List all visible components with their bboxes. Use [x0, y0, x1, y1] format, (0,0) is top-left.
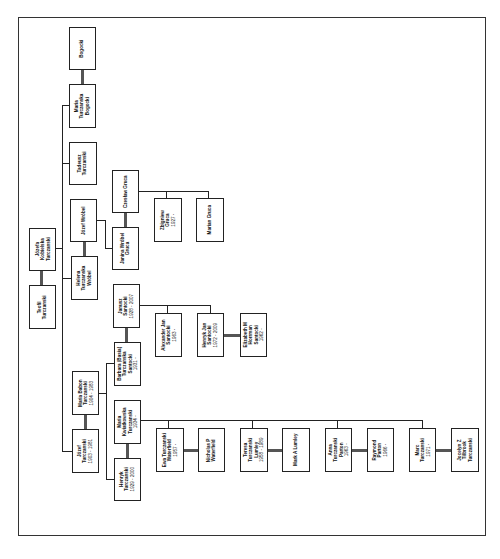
person-name: Elizabeth M Horrman Santocki — [243, 322, 259, 347]
person-jozefa[interactable]: Józefa Kobielska Turczanski — [29, 228, 56, 271]
person-dates: 1958 - 1989 — [259, 438, 264, 463]
person-name: Tadeusz Turczanski — [78, 152, 89, 176]
person-dates: 1966 - — [383, 443, 388, 456]
person-name: Zbigniew Gruca — [160, 210, 170, 230]
connector — [140, 305, 211, 306]
connector — [210, 305, 211, 313]
connector — [62, 451, 72, 452]
person-zbigniew[interactable]: Zbigniew Gruca 1927 - — [154, 198, 182, 242]
person-raymond[interactable]: Raymond Parton 1966 - — [367, 428, 394, 472]
person-henryk[interactable]: Henryk Turczanski 1929 - 2000 — [114, 458, 141, 501]
person-czeslaw[interactable]: Czesław Gruca — [112, 170, 139, 213]
connector — [62, 163, 69, 164]
person-teofil[interactable]: Teofil Turczanski — [29, 285, 56, 329]
connector — [167, 305, 168, 313]
person-name: Barbara (Basia) Turczanska Santocki — [117, 347, 133, 381]
connector — [208, 191, 209, 198]
person-dates: 1963 - — [344, 443, 349, 456]
person-tadeusz[interactable]: Tadeusz Turczanski — [69, 142, 97, 185]
person-maria-kwiatkowska[interactable]: Maria Kwiatkowska Turczanski 1934 - — [114, 400, 141, 444]
person-maria-babon[interactable]: Maria Babon Turczanski 1904 - 1983 — [72, 371, 99, 415]
person-dates: 1927 - — [171, 213, 176, 226]
person-janina[interactable]: Janina Wróbel Gruca — [112, 227, 139, 270]
person-name: Maria Kwiatkowska Turczanski — [117, 408, 133, 437]
connector — [337, 420, 338, 428]
connector — [62, 278, 71, 279]
connector — [422, 420, 423, 428]
person-barbara[interactable]: Barbara (Basia) Turczanska Santocki 1931… — [114, 342, 141, 386]
person-dates: 1931 - — [133, 357, 138, 370]
person-name: Czesław Gruca — [123, 175, 128, 208]
person-name: Alexander Jan Santocki — [160, 319, 170, 350]
person-dates: 1962 - — [259, 328, 264, 341]
person-jozef-turczanski[interactable]: Józef Turczanski 1903 - 1981 — [72, 429, 99, 473]
person-dates: 1972 - 2009 — [213, 323, 218, 348]
person-jocelyn[interactable]: Jocelyn Z Tilbrook Turczanski — [451, 428, 479, 472]
person-name: Jocelyn Z Tilbrook Turczanski — [457, 438, 473, 462]
person-dates: 1957 - — [173, 443, 178, 456]
connector — [99, 393, 106, 394]
connector — [105, 248, 112, 249]
person-name: Janusz Santocki — [118, 296, 128, 315]
person-dates: 1904 - 1983 — [88, 381, 93, 406]
person-name: Marian Gruca — [207, 205, 212, 234]
person-name: Helena Turczanska Wróbel — [76, 266, 92, 291]
person-nicholas[interactable]: Nicholas P Waterfield — [198, 428, 225, 472]
person-alexander[interactable]: Alexander Jan Santocki 1963 - — [155, 313, 182, 357]
person-janusz[interactable]: Janusz Santocki 1928 - 2007 — [113, 284, 140, 328]
person-name: Anna Turczanski Parton — [328, 438, 344, 462]
person-dates: 1963 - — [171, 328, 176, 341]
spouse-link — [224, 334, 240, 337]
spouse-link — [81, 70, 84, 84]
person-ewa[interactable]: Ewa Turczanski Waterfield 1957 - — [156, 428, 184, 472]
person-name: Teresa Turczanski Lumley — [243, 438, 259, 462]
person-name: Józefa Kobielska Turczanski — [34, 238, 50, 262]
connector — [106, 363, 107, 479]
person-dates: 1903 - 1981 — [88, 439, 93, 464]
person-name: Henryk Jan Santocki — [202, 323, 212, 348]
person-name: Bogocki — [80, 39, 85, 57]
spouse-link — [352, 449, 367, 452]
spouse-link — [126, 444, 129, 458]
person-name: Marc Turczanski — [414, 438, 424, 462]
person-name: Janina Wróbel Gruca — [120, 233, 131, 264]
person-henryk-jan[interactable]: Henryk Jan Santocki 1972 - 2009 — [197, 313, 224, 357]
spouse-link — [268, 449, 282, 452]
connector — [168, 420, 169, 428]
connector — [97, 220, 105, 221]
person-dates: 1928 - 2007 — [129, 294, 134, 319]
person-jozef-wrobel[interactable]: Józef Wróbel — [70, 199, 97, 242]
person-anna[interactable]: Anna Turczanski Parton 1963 - — [325, 428, 352, 472]
person-name: Józef Turczanski — [77, 439, 87, 463]
person-bogocki[interactable]: Bogocki — [69, 27, 96, 70]
person-elizabeth[interactable]: Elizabeth M Horrman Santocki 1962 - — [240, 313, 267, 357]
person-name: Ewa Turczanski Waterfield — [162, 433, 172, 467]
person-name: Maria Turczanska Bogocki — [74, 94, 90, 119]
spouse-link — [436, 449, 451, 452]
person-name: Raymond Parton — [372, 440, 382, 461]
connector — [106, 363, 114, 364]
person-name: Maria Babon Turczanski — [77, 379, 87, 407]
person-dates: 1934 - — [133, 415, 138, 428]
person-marc[interactable]: Marc Turczanski 1971 - — [409, 428, 436, 472]
person-name: Henryk Turczanski — [119, 468, 129, 492]
person-name: Teofil Turczanski — [37, 295, 48, 319]
spouse-link — [184, 449, 198, 452]
person-teresa[interactable]: Teresa Turczanski Lumley 1958 - 1989 — [240, 428, 268, 472]
person-maria-bogocki[interactable]: Maria Turczanska Bogocki — [69, 84, 96, 128]
spouse-link — [125, 328, 128, 342]
connector — [62, 105, 69, 106]
connector — [139, 191, 209, 192]
person-marian[interactable]: Marian Gruca — [196, 198, 224, 242]
person-dates: 1971 - — [425, 443, 430, 456]
person-name: Nicholas P Waterfield — [206, 438, 217, 462]
person-name: Mark A Lumley — [293, 434, 298, 466]
connector — [252, 420, 253, 428]
person-helena[interactable]: Helena Turczanska Wróbel — [71, 256, 98, 300]
spouse-link — [83, 242, 86, 256]
person-mark[interactable]: Mark A Lumley — [282, 428, 310, 472]
person-name: Józef Wróbel — [81, 206, 86, 235]
connector — [105, 220, 106, 248]
person-dates: 1929 - 2000 — [130, 467, 135, 492]
connector — [106, 479, 114, 480]
